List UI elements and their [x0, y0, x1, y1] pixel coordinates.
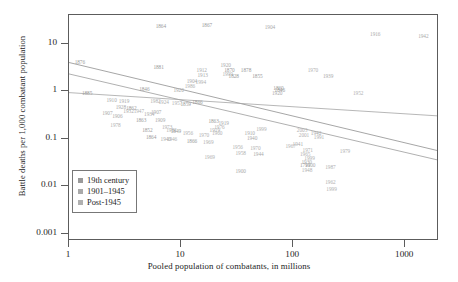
y-tick-label: 10: [11, 37, 57, 47]
data-point-label: 1919: [218, 122, 228, 127]
data-point-label: 1885: [82, 92, 92, 97]
data-point-label: 1916: [370, 32, 380, 37]
data-point-label: 1956: [183, 131, 193, 136]
legend-item-label: 19th century: [87, 176, 129, 185]
data-point-label: 1878: [241, 69, 251, 74]
data-point-label: 1940: [247, 136, 257, 141]
data-point-label: 1952: [353, 92, 363, 97]
y-tick-label: 0.001: [11, 227, 57, 237]
y-tick-mark: [61, 138, 68, 139]
x-tick-mark: [404, 240, 405, 247]
data-point-label: 1999: [326, 188, 336, 193]
legend-item-label: 1901–1945: [87, 187, 125, 196]
data-point-label: 1864: [156, 25, 166, 30]
data-point-label: 1946: [167, 138, 177, 143]
y-tick-label: 0.01: [11, 179, 57, 189]
legend-swatch-icon: [78, 200, 83, 205]
data-point-label: 1828: [229, 75, 239, 80]
data-point-label: 1969: [203, 140, 213, 145]
data-point-label: 1944: [253, 152, 263, 157]
y-axis-label: Battle deaths per 1,000 combatant popula…: [17, 1, 27, 231]
legend-swatch-icon: [78, 178, 83, 183]
data-point-label: 1962: [325, 181, 335, 186]
data-point-label: 1910: [106, 98, 116, 103]
data-point-label: 1987: [325, 165, 335, 170]
legend-item-1901_1945[interactable]: 1901–1945: [78, 186, 129, 197]
data-point-label: 1991: [314, 135, 324, 140]
legend-item-label: Post-1945: [87, 198, 121, 207]
data-point-label: 1909: [155, 118, 165, 123]
x-tick-label: 1: [43, 249, 93, 259]
data-point-label: 1920: [272, 92, 282, 97]
data-point-label: 1979: [340, 149, 350, 154]
data-point-label: 1958: [235, 151, 245, 156]
data-point-label: 1864: [146, 135, 156, 140]
y-tick-mark: [61, 185, 68, 186]
chart-figure: Battle deaths per 1,000 combatant popula…: [0, 0, 458, 282]
data-point-label: 1866: [187, 139, 197, 144]
data-point-label: 1978: [110, 123, 120, 128]
x-tick-mark: [68, 240, 69, 247]
chart-legend: 19th century1901–1945Post-1945: [72, 170, 137, 213]
data-point-label: 1999: [256, 127, 266, 132]
data-point-label: 1863: [136, 119, 146, 124]
data-point-label: 1970: [199, 133, 209, 138]
data-point-label: 1849: [171, 130, 181, 135]
data-point-label: 1900: [235, 169, 245, 174]
x-tick-label: 10: [155, 249, 205, 259]
data-point-label: 1924: [159, 100, 169, 105]
data-point-label: 1942: [418, 35, 428, 40]
data-point-label: 1866: [192, 100, 202, 105]
data-point-label: 1969: [204, 155, 214, 160]
legend-item-19th_century[interactable]: 19th century: [78, 175, 129, 186]
data-point-label: 1906: [112, 114, 122, 119]
legend-item-post_1945[interactable]: Post-1945: [78, 197, 129, 208]
y-tick-mark: [61, 43, 68, 44]
data-point-label: 1920: [173, 88, 183, 93]
data-point-label: 1913: [198, 73, 208, 78]
data-point-label: 1947: [134, 110, 144, 115]
data-point-label: 1986: [185, 84, 195, 89]
data-point-label: 1859: [181, 103, 191, 108]
data-point-label: 1948: [302, 168, 312, 173]
legend-swatch-icon: [78, 189, 83, 194]
data-point-label: 1876: [75, 60, 85, 65]
data-point-label: 1907: [102, 111, 112, 116]
data-point-label: 1855: [252, 74, 262, 79]
data-point-label: 1881: [153, 65, 163, 70]
data-point-label: 1904: [265, 26, 275, 31]
y-tick-label: 0.1: [11, 132, 57, 142]
data-point-label: 1970: [308, 68, 318, 73]
x-tick-mark: [292, 240, 293, 247]
data-point-label: 1939: [323, 74, 333, 79]
y-tick-label: 1: [11, 84, 57, 94]
data-point-label: 1932: [123, 109, 133, 114]
y-tick-mark: [61, 90, 68, 91]
data-point-label: 1967: [285, 144, 295, 149]
x-tick-label: 100: [267, 249, 317, 259]
x-tick-mark: [180, 240, 181, 247]
data-point-label: 1846: [139, 87, 149, 92]
data-point-label: 2001: [299, 133, 309, 138]
x-tick-label: 1000: [379, 249, 429, 259]
x-axis-label: Pooled population of combatants, in mill…: [0, 261, 458, 271]
data-point-label: 1852: [142, 128, 152, 133]
data-point-label: 1994: [196, 80, 206, 85]
data-point-label: 1907: [151, 110, 161, 115]
y-tick-mark: [61, 233, 68, 234]
data-point-label: 1867: [202, 24, 212, 29]
